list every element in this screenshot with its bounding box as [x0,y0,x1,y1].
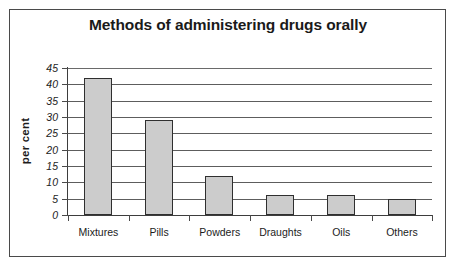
bar-oils [327,195,355,215]
x-tick-3 [250,215,251,221]
bar-others [388,199,416,215]
y-tick-label-5: 5 [36,193,58,204]
x-tick-6 [432,215,433,221]
y-tick-35 [62,101,68,102]
plot-area [68,68,432,215]
chart-title: Methods of administering drugs orally [0,16,456,34]
bar-mixtures [84,78,112,215]
gridline-10 [68,182,432,183]
y-tick-label-35: 35 [36,95,58,106]
x-tick-5 [372,215,373,221]
gridline-45 [68,68,432,69]
bar-pills [145,120,173,215]
x-tick-0 [68,215,69,221]
y-axis-line [67,67,68,216]
y-tick-25 [62,133,68,134]
y-tick-label-25: 25 [36,128,58,139]
x-tick-1 [129,215,130,221]
y-tick-label-40: 40 [36,79,58,90]
y-axis-title: per cent [14,104,36,178]
x-tick-4 [311,215,312,221]
y-tick-45 [62,68,68,69]
gridline-40 [68,84,432,85]
gridline-30 [68,117,432,118]
y-tick-15 [62,166,68,167]
y-tick-label-0: 0 [36,210,58,221]
bar-powders [205,176,233,215]
y-tick-5 [62,199,68,200]
x-tick-2 [189,215,190,221]
gridline-5 [68,199,432,200]
y-tick-20 [62,150,68,151]
gridline-25 [68,133,432,134]
gridline-15 [68,166,432,167]
y-tick-40 [62,84,68,85]
y-tick-10 [62,182,68,183]
y-tick-label-30: 30 [36,112,58,123]
bar-draughts [266,195,294,215]
y-tick-label-15: 15 [36,161,58,172]
y-tick-30 [62,117,68,118]
y-axis-title-label: per cent [19,118,31,164]
y-tick-label-45: 45 [36,63,58,74]
chart-figure: Methods of administering drugs orally pe… [0,0,456,274]
y-tick-label-10: 10 [36,177,58,188]
gridline-20 [68,150,432,151]
x-label-others: Others [357,226,447,238]
gridline-35 [68,101,432,102]
y-tick-label-20: 20 [36,144,58,155]
